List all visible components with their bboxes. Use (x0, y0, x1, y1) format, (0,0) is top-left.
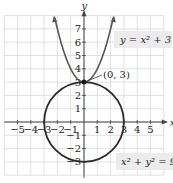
y-tick-label: 6 (75, 37, 81, 48)
intersection-label: (0, 3) (103, 69, 130, 80)
parabola-arrow-right-icon (111, 16, 116, 23)
x-axis-arrow-icon (162, 120, 168, 125)
intersection-point (82, 80, 87, 85)
y-tick-label: −1 (66, 130, 81, 141)
y-axis-label: y (81, 0, 88, 11)
x-tick-label: 5 (147, 124, 153, 135)
y-tick-label: 1 (75, 103, 81, 114)
y-axis-arrow-icon (82, 10, 87, 16)
x-tick-label: 2 (107, 124, 113, 135)
y-tick-label: 5 (75, 50, 81, 61)
x-axis-label: x (170, 117, 173, 128)
parabola-arrow-left-icon (52, 16, 57, 23)
y-tick-label: −2 (66, 143, 81, 154)
y-tick-label: 2 (75, 90, 81, 101)
x-tick-label: 1 (94, 124, 100, 135)
graph: −5−4−3−2−112345−3−2−11234567 (0, 3) x y … (0, 0, 173, 183)
parabola-equation: y = x² + 3 (119, 34, 171, 45)
intersection-leader-line (87, 75, 102, 81)
x-tick-label: 4 (134, 124, 140, 135)
y-tick-label: 4 (75, 63, 81, 74)
y-tick-label: 7 (75, 23, 81, 34)
circle-equation: x² + y² = 9 (121, 156, 173, 167)
